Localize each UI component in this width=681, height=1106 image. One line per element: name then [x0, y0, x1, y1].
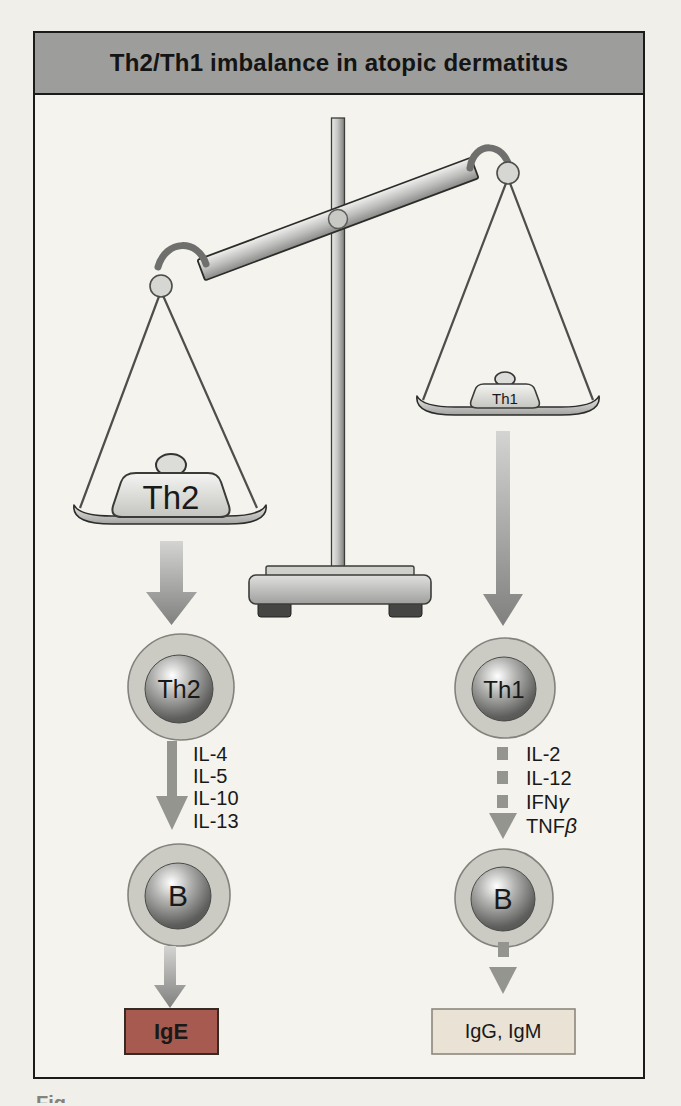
right-cytokine-arrow-dash — [497, 747, 508, 760]
cytokine-label: IL-2 — [526, 743, 560, 765]
igg-igm-label: IgG, IgM — [465, 1020, 542, 1042]
left-hanger-ring — [150, 275, 172, 297]
cytokine-label: IL-10 — [193, 787, 239, 809]
scale-base-slab — [249, 575, 431, 604]
right-pan-arrow — [483, 431, 523, 626]
th2-weight-label: Th2 — [143, 479, 200, 516]
right-output-arrow-head — [489, 967, 517, 994]
left-output-arrow — [154, 946, 186, 1008]
right-b-cell-label: B — [493, 883, 512, 915]
cytokine-label: IFNγ — [526, 790, 570, 813]
figure-title-bar: Th2/Th1 imbalance in atopic dermatitus — [35, 33, 643, 95]
cytokine-label: IL-4 — [193, 743, 227, 765]
right-pan-strings — [423, 178, 593, 400]
cytokine-label: IL-12 — [526, 767, 572, 789]
th1-weight-label: Th1 — [492, 390, 518, 407]
th1-cell-label: Th1 — [483, 676, 524, 703]
right-cytokine-arrow-head — [489, 813, 517, 839]
caption-fragment: Fig. — [36, 1093, 236, 1103]
th2-cell-label: Th2 — [157, 675, 200, 703]
left-cytokine-arrow — [156, 741, 188, 830]
right-output-arrow-dash — [498, 942, 509, 957]
figure-frame: Th2/Th1 imbalance in atopic dermatitus — [33, 31, 645, 1079]
left-b-cell-label: B — [168, 879, 188, 912]
figure-title: Th2/Th1 imbalance in atopic dermatitus — [110, 49, 568, 77]
right-cytokine-arrow-dash — [497, 795, 508, 808]
scale-pole — [332, 118, 345, 575]
right-hanger-ring — [497, 162, 519, 184]
cytokine-label: IL-5 — [193, 765, 227, 787]
beam-pivot — [329, 210, 348, 229]
cytokine-label: TNFβ — [526, 814, 577, 837]
cytokine-label: IL-13 — [193, 810, 239, 832]
right-cytokine-arrow-dash — [497, 771, 508, 784]
left-pan-arrow — [146, 541, 197, 625]
balance-diagram: Th2 Th1 Th2 Th1 IL-4 IL-5 IL-10 IL-13 — [35, 95, 642, 1075]
ige-label: IgE — [154, 1019, 188, 1044]
